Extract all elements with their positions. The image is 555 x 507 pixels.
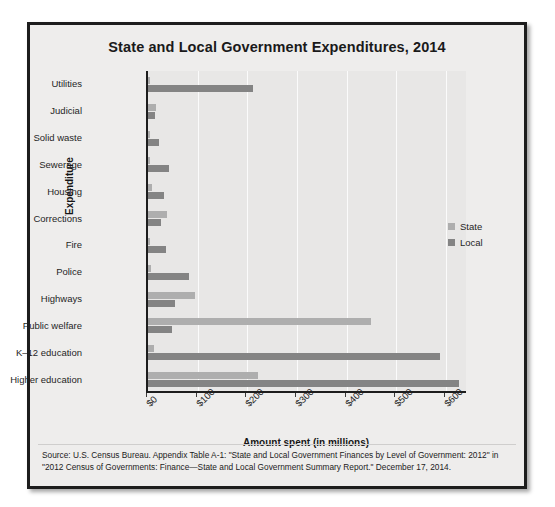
bar-state xyxy=(148,184,152,191)
bar-group xyxy=(148,104,466,119)
y-tick-label: Police xyxy=(56,266,82,277)
bar-local xyxy=(148,353,440,360)
note-divider xyxy=(38,444,516,445)
gridline-400 xyxy=(347,71,348,391)
chart-legend: StateLocal xyxy=(448,221,483,253)
bar-local xyxy=(148,300,175,307)
bar-group xyxy=(148,157,466,172)
legend-label: Local xyxy=(460,237,483,248)
legend-swatch-local xyxy=(448,239,455,246)
x-axis-title: Amount spent (in millions) xyxy=(146,437,466,448)
bar-group xyxy=(148,211,466,226)
x-tick-mark xyxy=(196,393,197,397)
y-tick-label: Higher education xyxy=(10,374,82,385)
bar-local xyxy=(148,246,166,253)
bar-group xyxy=(148,131,466,146)
bar-group xyxy=(148,238,466,253)
y-tick-label: Sewerage xyxy=(39,159,82,170)
legend-label: State xyxy=(460,221,482,232)
y-tick-label: Public welfare xyxy=(23,320,82,331)
gridline-100 xyxy=(198,71,199,391)
chart-title: State and Local Government Expenditures,… xyxy=(30,39,524,55)
y-tick-label: Highways xyxy=(41,293,82,304)
source-note: Source: U.S. Census Bureau. Appendix Tab… xyxy=(42,449,512,473)
y-tick-label: K–12 education xyxy=(16,347,82,358)
bar-local xyxy=(148,219,161,226)
bar-local xyxy=(148,139,159,146)
bar-group xyxy=(148,372,466,387)
gridline-200 xyxy=(247,71,248,391)
bar-group xyxy=(148,292,466,307)
legend-item: State xyxy=(448,221,483,232)
y-tick-label: Utilities xyxy=(51,78,82,89)
legend-item: Local xyxy=(448,237,483,248)
figure-container: State and Local Government Expenditures,… xyxy=(27,22,527,489)
gridline-300 xyxy=(297,71,298,391)
y-tick-label: Corrections xyxy=(33,213,82,224)
legend-swatch-state xyxy=(448,223,455,230)
bar-state xyxy=(148,292,195,299)
bar-local xyxy=(148,112,155,119)
bar-state xyxy=(148,157,150,164)
y-tick-label: Judicial xyxy=(50,105,82,116)
bar-state xyxy=(148,265,151,272)
y-tick-label: Fire xyxy=(66,239,82,250)
bar-group xyxy=(148,77,466,92)
plot-block xyxy=(146,71,466,393)
bar-local xyxy=(148,165,169,172)
bar-local xyxy=(148,380,459,387)
bar-state xyxy=(148,238,150,245)
gridline-500 xyxy=(396,71,397,391)
bar-state xyxy=(148,345,154,352)
bar-state xyxy=(148,211,167,218)
bar-group xyxy=(148,318,466,333)
plot-area xyxy=(146,71,466,393)
bar-local xyxy=(148,192,164,199)
bar-group xyxy=(148,184,466,199)
bar-local xyxy=(148,85,253,92)
bar-state xyxy=(148,131,150,138)
gridline-600 xyxy=(446,71,447,391)
y-tick-label: Solid waste xyxy=(33,132,82,143)
y-tick-label: Housing xyxy=(47,186,82,197)
bar-local xyxy=(148,326,172,333)
bar-state xyxy=(148,318,371,325)
bar-group xyxy=(148,345,466,360)
bar-state xyxy=(148,77,150,84)
bar-state xyxy=(148,104,156,111)
bar-group xyxy=(148,265,466,280)
bar-local xyxy=(148,273,189,280)
x-tick-mark xyxy=(345,393,346,397)
bar-state xyxy=(148,372,258,379)
